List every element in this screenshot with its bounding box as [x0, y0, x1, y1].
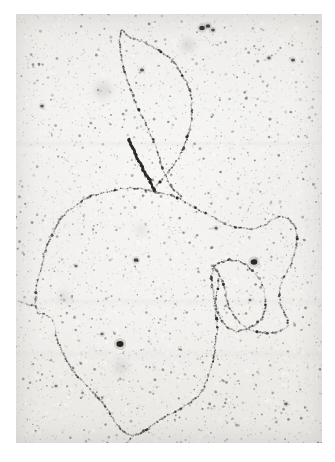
- micrograph-page: [0, 0, 335, 462]
- micrograph-plate: [16, 14, 322, 443]
- dna-filament-traces: [16, 14, 322, 443]
